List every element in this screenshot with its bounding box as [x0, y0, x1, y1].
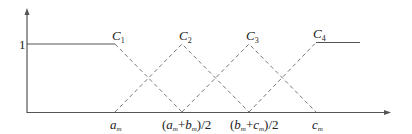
curve-label-c1: C1	[112, 28, 125, 45]
membership-diagram: 1 C1 C2 C3 C4 am (am+bm)/2 (bm+cm)/2 cm	[0, 0, 412, 134]
x-axis-arrow-icon	[384, 110, 391, 115]
y-tick-label: 1	[19, 37, 26, 52]
curve-label-c2: C2	[179, 28, 192, 45]
x-tick-a-m: am	[110, 117, 122, 133]
x-tick-c-m: cm	[312, 117, 323, 133]
curve-label-c3: C3	[246, 28, 259, 45]
x-tick-bc-half: (bm+cm)/2	[230, 117, 279, 133]
axes	[25, 8, 392, 115]
curve-label-c4: C4	[313, 26, 326, 43]
c3-triangle	[182, 44, 316, 112]
dashed-membership-lines	[115, 43, 316, 113]
c2-triangle	[115, 44, 249, 112]
x-tick-ab-half: (am+bm)/2	[162, 117, 211, 133]
y-axis-arrow-icon	[25, 8, 30, 15]
